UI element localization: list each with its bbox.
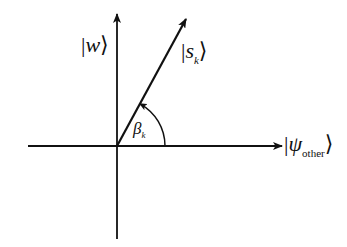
- label-ket-psi-other: |ψother⟩: [284, 133, 333, 155]
- label-angle-beta-k: βk: [133, 120, 145, 137]
- label-ket-w: |w⟩: [81, 34, 109, 56]
- ket-symbol-w: w: [85, 32, 100, 57]
- vector-s-k: [117, 19, 186, 146]
- ket-subscript-other: other: [302, 147, 325, 159]
- ket-symbol-s: s: [185, 38, 194, 63]
- ket-close-angle: ⟩: [100, 32, 109, 57]
- ket-close-angle: ⟩: [325, 131, 334, 156]
- beta-subscript-k: k: [141, 130, 145, 140]
- ket-symbol-psi: ψ: [288, 131, 302, 156]
- vector-diagram: [0, 0, 347, 247]
- ket-subscript-k: k: [194, 54, 199, 66]
- label-ket-s-k: |sk⟩: [181, 40, 207, 62]
- ket-close-angle: ⟩: [199, 38, 208, 63]
